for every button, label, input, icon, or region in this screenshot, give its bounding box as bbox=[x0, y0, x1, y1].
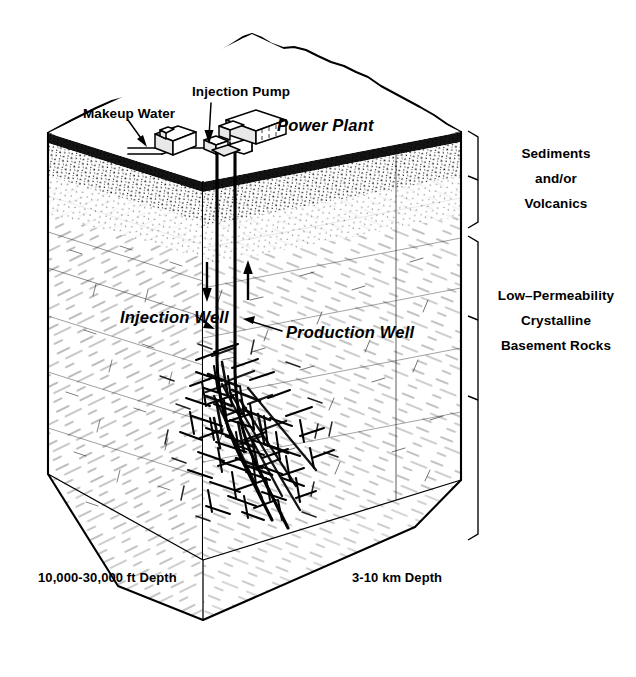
geothermal-block-diagram: Makeup Water Injection Pump Power Plant … bbox=[0, 0, 636, 677]
injection-pump-label: Injection Pump bbox=[192, 84, 290, 99]
upper-strata-label: Sediments and/or Volcanics bbox=[521, 146, 590, 211]
makeup-water-label: Makeup Water bbox=[83, 106, 176, 121]
power-plant-label: Power Plant bbox=[277, 116, 375, 134]
svg-text:and/or: and/or bbox=[535, 171, 577, 186]
injection-well-label: Injection Well bbox=[120, 308, 229, 326]
production-well-label: Production Well bbox=[286, 323, 414, 341]
lower-strata-bracket-icon bbox=[468, 236, 478, 540]
svg-text:Crystalline: Crystalline bbox=[521, 313, 592, 328]
svg-text:Basement Rocks: Basement Rocks bbox=[501, 338, 611, 353]
upper-strata-bracket-icon bbox=[468, 131, 478, 228]
svg-text:Sediments: Sediments bbox=[521, 146, 590, 161]
svg-text:Low–Permeability: Low–Permeability bbox=[498, 288, 615, 303]
imperial-depth-label: 10,000-30,000 ft Depth bbox=[38, 570, 177, 585]
strata-brackets bbox=[468, 131, 478, 540]
svg-text:Volcanics: Volcanics bbox=[525, 196, 588, 211]
metric-depth-label: 3-10 km Depth bbox=[352, 570, 442, 585]
diagram-canvas: Makeup Water Injection Pump Power Plant … bbox=[0, 0, 636, 677]
lower-strata-label: Low–Permeability Crystalline Basement Ro… bbox=[498, 288, 615, 353]
